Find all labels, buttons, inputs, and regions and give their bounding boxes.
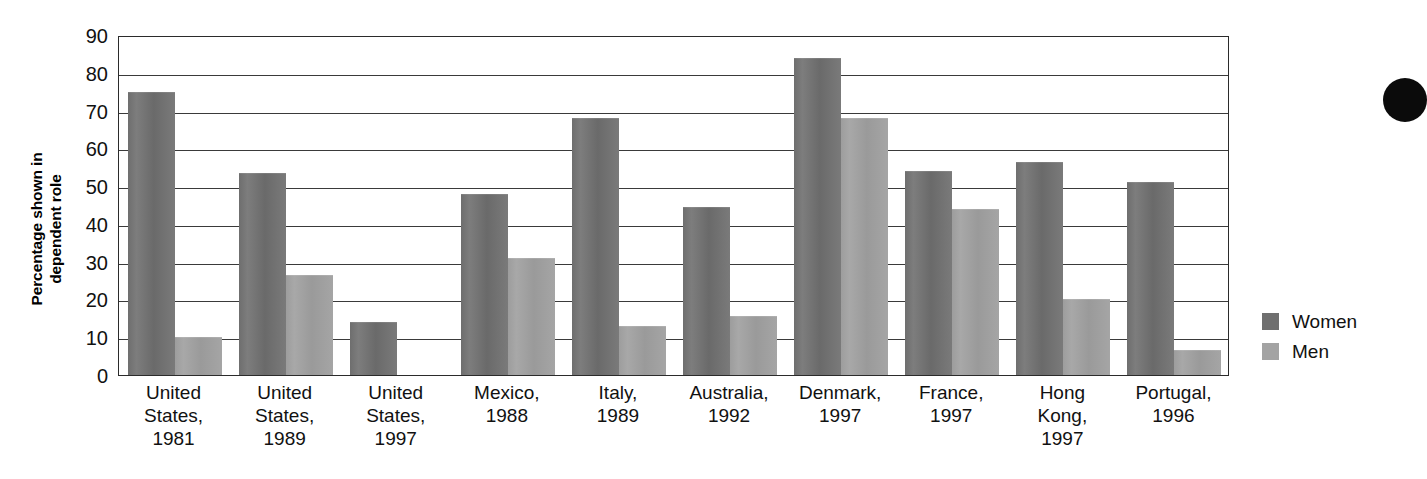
bar-group [1016,37,1110,375]
bar-men [286,275,333,375]
bar-group [239,37,333,375]
bar-men [730,316,777,375]
legend-swatch-women [1262,313,1279,330]
y-tick-label-0: 0 [97,366,108,386]
bar-women [1127,182,1174,375]
bar-women [350,322,397,375]
bar-women [239,173,286,375]
legend-item-men: Men [1262,336,1392,366]
y-tick-label-10: 10 [86,328,108,348]
bar-group [1127,37,1221,375]
bar-group [572,37,666,375]
y-axis-tick-labels: 9080706050403020100 [60,36,108,376]
bar-women [794,58,841,375]
plot-area [118,36,1229,376]
bar-men [619,326,666,375]
legend-swatch-men [1262,343,1279,360]
bar-group [350,37,444,375]
x-tick-label: Portugal, 1996 [1108,381,1239,427]
legend-item-women: Women [1262,306,1392,336]
bar-men [952,209,999,375]
bar-men [508,258,555,375]
bar-group [794,37,888,375]
y-tick-label-40: 40 [86,215,108,235]
bar-series-container [119,37,1228,375]
legend-label: Women [1292,312,1357,331]
bar-group [461,37,555,375]
x-axis-tick-labels: United States, 1981United States, 1989Un… [118,381,1229,476]
y-tick-label-80: 80 [86,64,108,84]
y-tick-label-50: 50 [86,177,108,197]
y-tick-label-30: 30 [86,253,108,273]
bar-men [175,337,222,375]
bar-group [128,37,222,375]
bar-women [683,207,730,375]
bar-women [905,171,952,375]
y-tick-label-70: 70 [86,102,108,122]
bar-women [128,92,175,375]
legend-label: Men [1292,342,1329,361]
y-tick-label-60: 60 [86,139,108,159]
bar-men [1174,350,1221,375]
y-tick-label-90: 90 [86,26,108,46]
bar-women [1016,162,1063,375]
bar-group [905,37,999,375]
page-edge-artifact [1383,78,1427,122]
bar-women [572,118,619,375]
bar-women [461,194,508,375]
bar-men [841,118,888,375]
chart-legend: WomenMen [1262,306,1392,366]
y-tick-label-20: 20 [86,290,108,310]
bar-men [1063,299,1110,375]
bar-group [683,37,777,375]
